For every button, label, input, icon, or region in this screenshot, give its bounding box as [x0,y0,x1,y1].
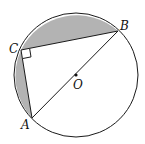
center-point-o [74,73,77,76]
label-a: A [20,118,30,132]
shaded-segment-cb [21,15,118,50]
label-c: C [9,42,18,56]
label-o: O [73,78,83,92]
circle-diagram: C B O A [0,0,145,144]
label-b: B [119,19,129,33]
